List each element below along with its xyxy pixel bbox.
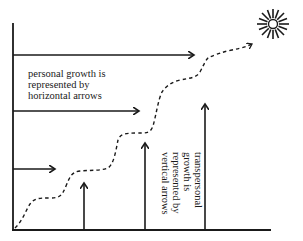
diagram-canvas bbox=[0, 0, 303, 241]
sun-icon bbox=[257, 9, 289, 39]
transpersonal-label-line-3: represented by bbox=[171, 152, 182, 230]
personal-label-line-1: personal growth is bbox=[28, 68, 168, 79]
transpersonal-label-line-4: vertical arrows bbox=[160, 152, 171, 230]
transpersonal-label-line-1: transpersonal bbox=[193, 152, 204, 230]
transpersonal-label-line-2: growth is bbox=[182, 152, 193, 230]
personal-label-line-2: represented by bbox=[28, 79, 168, 90]
personal-label-line-3: horizontal arrows bbox=[28, 90, 168, 101]
personal-growth-label: personal growth is represented by horizo… bbox=[28, 68, 168, 101]
transpersonal-growth-label: transpersonal growth is represented by v… bbox=[160, 152, 204, 230]
